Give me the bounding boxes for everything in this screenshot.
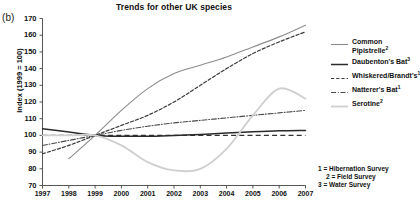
legend-item: Daubenton's Bat3 (331, 58, 419, 69)
y-tick-label: 120 (11, 97, 37, 106)
legend-item: Serotine2 (331, 100, 419, 111)
legend-item-label: Common Pipistrelle2 (352, 38, 419, 55)
legend-item-label: Natterer's Bat1 (352, 86, 400, 95)
footnote-3: 3 = Water Survey (318, 181, 419, 189)
legend-item-label: Serotine2 (352, 100, 383, 109)
legend-key-line-solid-lightgray (331, 102, 348, 111)
y-tick-label: 80 (11, 164, 37, 173)
x-tick-label: 2007 (291, 190, 321, 197)
series-line-serotine (43, 88, 306, 171)
y-tick-label: 130 (11, 80, 37, 89)
y-tick-label: 170 (11, 14, 37, 23)
y-tick-label: 110 (11, 114, 37, 123)
legend-key-line-solid-black (331, 60, 348, 69)
footnotes: 1 = Hibernation Survey 2 = Field Survey … (318, 165, 419, 189)
y-tick-label: 160 (11, 30, 37, 39)
legend-item-label: Daubenton's Bat3 (352, 58, 410, 67)
y-tick-label: 100 (11, 130, 37, 139)
axes (40, 19, 306, 189)
legend-key-line-dashed (331, 74, 348, 83)
legend-item-label: Whiskered/Brandt's1 (352, 72, 420, 81)
y-tick-label: 150 (11, 47, 37, 56)
legend: Common Pipistrelle2Daubenton's Bat3Whisk… (331, 38, 419, 114)
series-lines (43, 25, 306, 171)
y-tick-label: 140 (11, 64, 37, 73)
footnote-1: 1 = Hibernation Survey (318, 165, 419, 173)
y-tick-label: 70 (11, 181, 37, 190)
legend-key-line-solid-gray (331, 40, 348, 49)
legend-item: Natterer's Bat1 (331, 86, 419, 97)
y-tick-label: 90 (11, 147, 37, 156)
legend-item: Whiskered/Brandt's1 (331, 72, 419, 83)
legend-key-line-dashdot (331, 88, 348, 97)
legend-item: Common Pipistrelle2 (331, 38, 419, 55)
footnote-2: 2 = Field Survey (318, 173, 419, 181)
